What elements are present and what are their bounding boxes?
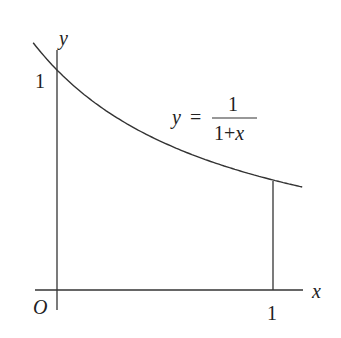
equation-lhs: y: [170, 106, 181, 129]
origin-label: O: [33, 296, 47, 318]
equation-denominator: 1+x: [214, 122, 244, 144]
function-graph: y x O 1 1 y = 1 1+x: [0, 0, 341, 338]
graph-svg: y x O 1 1 y = 1 1+x: [0, 0, 341, 338]
y-tick-label-1: 1: [35, 70, 45, 92]
equation-equals: =: [190, 106, 201, 128]
equation-numerator: 1: [228, 93, 238, 115]
x-axis-label: x: [311, 280, 321, 302]
x-tick-label-1: 1: [267, 302, 277, 324]
equation-label: y = 1 1+x: [170, 93, 257, 144]
curve-y-equals-1-over-1-plus-x: [33, 43, 302, 187]
y-axis-label: y: [57, 27, 68, 50]
